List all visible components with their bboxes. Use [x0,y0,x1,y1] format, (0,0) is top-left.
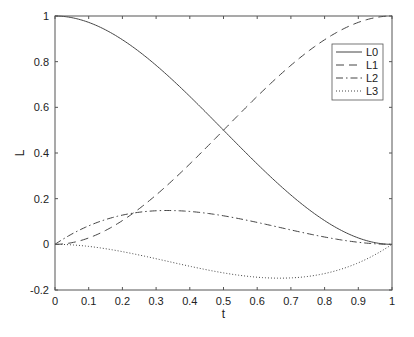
series-l3-line [55,244,392,278]
x-tick-label: 0.6 [250,295,265,307]
y-tick-label: -0.2 [30,284,49,296]
series-l2-line [55,211,392,245]
y-tick-label: 0 [43,238,49,250]
x-tick-label: 1 [389,295,395,307]
x-tick-label: 0.8 [317,295,332,307]
x-tick-label: 0.4 [182,295,197,307]
y-tick-label: 0.4 [34,147,49,159]
legend-label-l3: L3 [366,85,378,97]
legend: L0 L1 L2 L3 [332,44,383,100]
y-tick-label: 0.2 [34,193,49,205]
x-tick-label: 0.5 [216,295,231,307]
legend-label-l2: L2 [366,72,378,84]
y-tick-label: 0.8 [34,56,49,68]
legend-label-l0: L0 [366,46,378,58]
y-tick-label: 1 [43,10,49,22]
x-tick-label: 0.7 [283,295,298,307]
y-axis-label: L [13,149,27,156]
x-tick-label: 0 [52,295,58,307]
x-tick-label: 0.1 [81,295,96,307]
chart: 00.10.20.30.40.50.60.70.80.91-0.200.20.4… [0,0,414,337]
legend-label-l1: L1 [366,59,378,71]
x-axis-label: t [222,307,226,321]
x-tick-label: 0.2 [115,295,130,307]
x-tick-label: 0.3 [148,295,163,307]
y-tick-label: 0.6 [34,101,49,113]
x-tick-label: 0.9 [351,295,366,307]
